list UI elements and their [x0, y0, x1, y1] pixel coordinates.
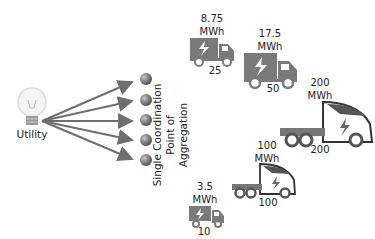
fleet-energy-label: 17.5MWh [250, 27, 290, 53]
lightbulb-icon [18, 88, 46, 125]
distribution-arrows [42, 82, 132, 159]
fleet-energy-label: 3.5MWh [190, 180, 220, 206]
fleet-count: 25 [200, 64, 230, 77]
fleet-energy-label: 100MWh [247, 139, 287, 165]
utility-label: Utility [10, 128, 54, 141]
aggregation-line-2: Point of [164, 75, 177, 195]
semi-truck-icon [232, 164, 295, 198]
box-truck-icon [190, 38, 234, 66]
fleet-count: 10 [192, 225, 216, 238]
aggregation-line-3: Aggregation [177, 75, 190, 195]
aggregation-label: Single Coordination Point of Aggregation [151, 75, 195, 195]
fleet-energy-label: 200MWh [300, 76, 340, 102]
semi-truck-icon [280, 102, 372, 146]
fleet-energy-label: 8.75MWh [190, 12, 234, 38]
box-truck-icon [189, 206, 224, 227]
fleet-count: 50 [258, 82, 288, 95]
fleet-count: 200 [305, 143, 335, 156]
aggregation-line-1: Single Coordination [151, 75, 164, 195]
fleet-count: 100 [253, 196, 283, 209]
